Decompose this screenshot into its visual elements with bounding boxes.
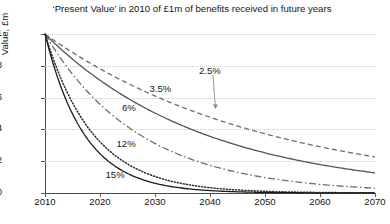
series-line-3-5pct xyxy=(45,34,375,173)
series-label-15pct: 15% xyxy=(106,169,125,180)
series-line-12pct xyxy=(45,34,375,193)
x-tick-label: 2010 xyxy=(23,196,67,207)
x-tick-label: 2040 xyxy=(188,196,232,207)
series-label-3-5pct: 3.5% xyxy=(150,83,172,94)
y-tick-label: 0.6 xyxy=(0,91,2,102)
annotation-arrow-head xyxy=(213,105,218,109)
x-tick-label: 2060 xyxy=(298,196,342,207)
series-label-12pct: 12% xyxy=(117,138,136,149)
x-tick-label: 2070 xyxy=(353,196,390,207)
chart-title: ‘Present Value’ in 2010 of £1m of benefi… xyxy=(42,3,342,16)
annotation-arrow-line xyxy=(213,75,216,109)
plot-area: 2.5%3.5%6%12%15% xyxy=(45,34,375,193)
x-tick-label: 2050 xyxy=(243,196,287,207)
series-line-2-5pct xyxy=(45,34,375,157)
y-tick-label: 0.8 xyxy=(0,59,2,70)
series-line-15pct xyxy=(45,34,375,193)
y-tick-label: 0.4 xyxy=(0,122,2,133)
series-label-6pct: 6% xyxy=(122,102,136,113)
series-label-2-5pct: 2.5% xyxy=(199,65,221,76)
y-tick-label: 0 xyxy=(0,186,2,197)
y-tick-label: 0.2 xyxy=(0,154,2,165)
x-tick-label: 2030 xyxy=(133,196,177,207)
y-tick-label: 1 xyxy=(0,27,2,38)
series-lines xyxy=(45,34,375,193)
x-tick-label: 2020 xyxy=(78,196,122,207)
